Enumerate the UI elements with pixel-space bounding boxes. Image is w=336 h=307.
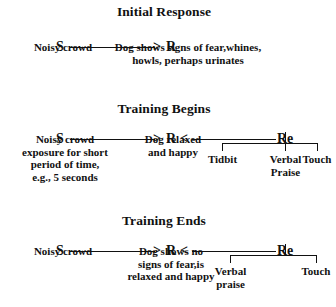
bracket-drop-1 xyxy=(230,255,231,263)
caption-response-line-2: howls, perhaps urinates xyxy=(88,54,288,67)
bracket-crossbar-right xyxy=(285,143,318,144)
panel-title-training-begins: Training Begins xyxy=(0,101,328,117)
panel-training-begins: Training Begins S > R < Re Noisy crowd e… xyxy=(0,101,328,148)
bracket-crossbar-left xyxy=(230,255,286,256)
panel-training-ends: Training Ends S > R < Re Noisy crowd Dog… xyxy=(0,213,328,260)
bracket-drop-3 xyxy=(317,143,318,151)
reinforcer-leaf-line-1: Touch xyxy=(293,265,336,278)
bracket-stem xyxy=(285,132,286,143)
reinforcer-leaf-line-1: Tidbit xyxy=(199,153,246,166)
panel-title-training-ends: Training Ends xyxy=(0,213,328,229)
bracket-crossbar-left xyxy=(222,143,286,144)
reinforcer-leaf-verbal-praise: Verbal praise xyxy=(203,265,258,290)
reinforcer-bracket xyxy=(0,244,328,264)
reinforcer-leaf-line-2: praise xyxy=(203,278,258,291)
bracket-drop-2 xyxy=(316,255,317,263)
reinforcer-leaf-line-2: Praise xyxy=(255,166,316,179)
caption-stimulus-line-4: e.g., 5 seconds xyxy=(4,171,126,184)
bracket-drop-2 xyxy=(285,143,286,151)
reinforcer-bracket xyxy=(0,132,328,152)
bracket-crossbar-right xyxy=(285,255,317,256)
reinforcer-leaf-touch: Touch xyxy=(293,265,336,278)
reinforcer-leaf-line-1: Touch xyxy=(294,153,336,166)
caption-stimulus-line-3: period of time, xyxy=(4,158,126,171)
bracket-drop-1 xyxy=(222,143,223,151)
reinforcer-leaf-line-1: Verbal xyxy=(203,265,258,278)
reinforcer-leaf-tidbit: Tidbit xyxy=(199,153,246,166)
panel-title-initial-response: Initial Response xyxy=(0,4,328,20)
bracket-stem xyxy=(285,244,286,255)
panel-initial-response: Initial Response S > R Noisy crowd Dog s… xyxy=(0,4,328,56)
caption-response-line-1: Dog shows signs of fear,whines, xyxy=(88,41,288,54)
caption-response: Dog shows signs of fear,whines, howls, p… xyxy=(88,41,288,66)
reinforcer-leaf-touch: Touch xyxy=(294,153,336,166)
